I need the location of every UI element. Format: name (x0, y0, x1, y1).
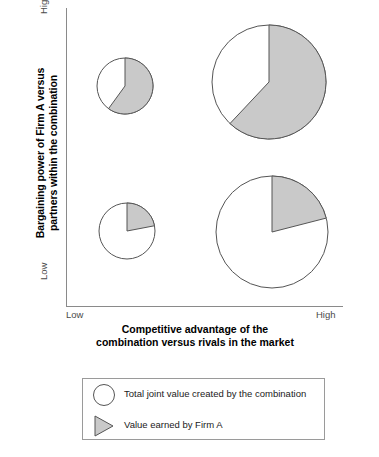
x-axis-tick-low: Low (66, 309, 83, 320)
x-axis-tick-high: High (316, 309, 336, 320)
x-axis-title-line2: combination versus rivals in the market (96, 336, 294, 348)
y-axis-title: Bargaining power of Firm A versus partne… (34, 13, 60, 293)
pie-high-advantage-high-power (210, 23, 328, 141)
pie-low-advantage-high-power (95, 56, 155, 116)
white-circle-icon (92, 383, 116, 407)
y-axis-tick-low: Low (38, 263, 49, 280)
legend-item-firm-a-value: Value earned by Firm A (83, 410, 324, 441)
y-axis-title-line1: Bargaining power of Firm A versus (34, 68, 46, 238)
legend-label-firm-a-value: Value earned by Firm A (124, 419, 223, 430)
legend: Total joint value created by the combina… (82, 378, 325, 440)
legend-label-total-value: Total joint value created by the combina… (124, 388, 306, 399)
gray-wedge-icon (92, 414, 116, 438)
y-axis-line (66, 8, 67, 307)
pie-matrix-chart: Bargaining power of Firm A versus partne… (0, 0, 379, 457)
x-axis-line (66, 306, 343, 307)
pie-firm-a-wedge (127, 203, 155, 231)
pie-high-advantage-low-power (214, 174, 330, 290)
y-axis-title-line2: partners within the combination (47, 75, 59, 231)
x-axis-title: Competitive advantage of the combination… (50, 323, 340, 349)
x-axis-title-line1: Competitive advantage of the (122, 323, 268, 335)
y-axis-tick-high: High (38, 0, 49, 14)
pie-low-advantage-low-power (97, 201, 157, 261)
legend-item-total-value: Total joint value created by the combina… (83, 379, 324, 410)
